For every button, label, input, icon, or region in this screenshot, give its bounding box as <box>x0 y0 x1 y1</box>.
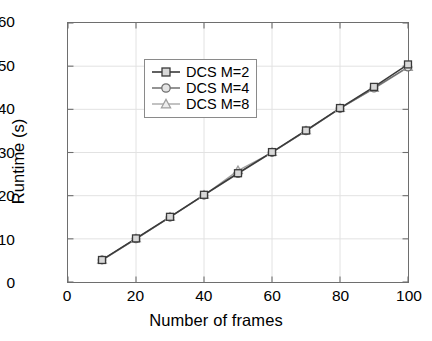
x-tick-label: 0 <box>63 288 72 304</box>
x-tick-label: 40 <box>195 288 212 304</box>
legend[interactable]: DCS M=2 DCS M=4 DCS M=8 <box>144 59 257 118</box>
y-tick-label: 60 <box>0 14 15 30</box>
y-tick-label: 0 <box>6 275 15 291</box>
x-tick-label: 60 <box>264 288 281 304</box>
legend-marker-square-icon <box>151 64 181 80</box>
legend-entry-dcs-m4[interactable]: DCS M=4 <box>151 80 249 96</box>
legend-label-dcs-m2: DCS M=2 <box>186 65 249 80</box>
x-tick-label: 100 <box>396 288 422 304</box>
legend-entry-dcs-m2[interactable]: DCS M=2 <box>151 64 249 80</box>
legend-label-dcs-m4: DCS M=4 <box>186 81 249 96</box>
legend-entry-dcs-m8[interactable]: DCS M=8 <box>151 96 249 112</box>
legend-marker-triangle-icon <box>151 96 181 112</box>
x-tick-label: 20 <box>127 288 144 304</box>
figure-canvas: Runtime (s) 0102030405060 020406080100 D… <box>0 0 432 341</box>
y-tick-label: 30 <box>0 145 15 161</box>
y-tick-label: 20 <box>0 188 15 204</box>
legend-label-dcs-m8: DCS M=8 <box>186 97 249 112</box>
y-tick-label: 10 <box>0 232 15 248</box>
y-tick-label: 40 <box>0 101 15 117</box>
plot-area: DCS M=2 DCS M=4 DCS M=8 <box>67 22 409 283</box>
y-tick-label: 50 <box>0 58 15 74</box>
x-axis-label: Number of frames <box>0 311 432 330</box>
x-tick-label: 80 <box>332 288 349 304</box>
legend-marker-circle-icon <box>151 80 181 96</box>
